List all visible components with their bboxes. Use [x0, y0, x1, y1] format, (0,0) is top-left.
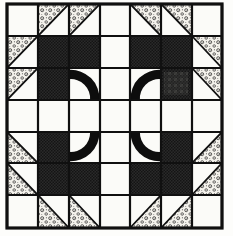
patch-cell-base	[7, 195, 38, 228]
patch-dark-square	[69, 36, 100, 68]
patch-dark-square	[38, 68, 69, 100]
patch-dark-square	[130, 36, 161, 68]
patch-cell-base	[161, 100, 192, 132]
patch-cell-base	[100, 195, 130, 228]
patch-cell-base	[192, 195, 222, 228]
patch-cell-base	[100, 4, 130, 36]
scan-smudge	[164, 72, 188, 95]
patch-cell-base	[7, 100, 38, 132]
patch-dark-square	[38, 36, 69, 68]
patch-cell-base	[100, 36, 130, 68]
patch-cell-base	[7, 4, 38, 36]
patch-cell-base	[192, 4, 222, 36]
patch-cell-base	[192, 100, 222, 132]
patch-dark-square	[161, 132, 192, 163]
patch-cell-base	[100, 163, 130, 195]
patch-cell-base	[69, 100, 100, 132]
patch-cell-base	[100, 132, 130, 163]
patch-cell-base	[100, 100, 130, 132]
patch-dark-square	[161, 163, 192, 195]
patch-cell-base	[100, 68, 130, 100]
patch-cell-base	[38, 100, 69, 132]
patch-dark-square	[69, 163, 100, 195]
quilt-block-figure	[0, 0, 233, 236]
patch-dark-square	[161, 36, 192, 68]
quilt-block-svg	[0, 0, 233, 236]
patch-dark-square	[38, 132, 69, 163]
patch-dark-square	[38, 163, 69, 195]
patch-dark-square	[130, 163, 161, 195]
patch-cell-base	[130, 100, 161, 132]
